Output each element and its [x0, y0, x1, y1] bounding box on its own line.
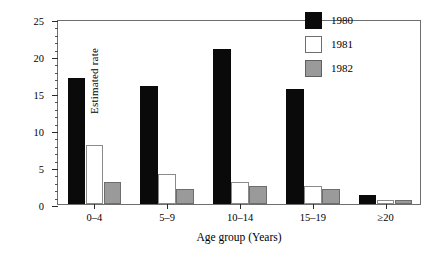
y-tick-minor: [55, 117, 59, 118]
bar-1980-≥20: [359, 195, 377, 204]
y-tick-label: 10: [34, 128, 45, 139]
y-tick-minor: [55, 80, 59, 81]
bar-1981-15–19: [304, 186, 322, 205]
y-tick-major: 25: [52, 21, 58, 22]
bar-1980-15–19: [286, 89, 304, 204]
bar-1982-≥20: [395, 200, 413, 204]
bar-1981-5–9: [158, 174, 176, 204]
legend-label: 1982: [331, 63, 353, 74]
legend: 198019811982: [305, 12, 353, 77]
y-tick-minor: [55, 73, 59, 74]
x-tick: [240, 204, 241, 209]
y-tick-minor: [55, 28, 59, 29]
bar-1981-10–14: [231, 182, 249, 204]
y-tick-minor: [55, 36, 59, 37]
y-tick-minor: [55, 102, 59, 103]
y-axis-title: Estimated rate: [88, 1, 100, 161]
bar-1982-10–14: [249, 186, 267, 205]
y-tick-major: 10: [52, 132, 58, 133]
x-tick: [386, 204, 387, 209]
legend-item-1981: 1981: [305, 36, 353, 53]
bar-1980-5–9: [140, 86, 158, 204]
legend-label: 1981: [331, 39, 353, 50]
x-tick-label: 15–19: [300, 213, 326, 224]
y-tick-major: 5: [52, 169, 58, 170]
y-tick-minor: [55, 184, 59, 185]
y-tick-major: 0: [52, 206, 58, 207]
x-tick: [94, 204, 95, 209]
y-tick-label: 25: [34, 17, 45, 28]
y-tick-minor: [55, 51, 59, 52]
y-tick-minor: [55, 139, 59, 140]
y-tick-major: 20: [52, 58, 58, 59]
y-tick-major: 15: [52, 95, 58, 96]
x-tick: [167, 204, 168, 209]
legend-swatch-1980: [305, 12, 322, 29]
y-tick-label: 5: [39, 165, 44, 176]
y-tick-minor: [55, 191, 59, 192]
x-tick-label: 10–14: [227, 213, 253, 224]
y-tick-minor: [55, 110, 59, 111]
legend-item-1980: 1980: [305, 12, 353, 29]
y-tick-minor: [55, 154, 59, 155]
bar-1982-5–9: [176, 189, 194, 204]
bar-1982-15–19: [322, 189, 340, 204]
legend-swatch-1982: [305, 60, 322, 77]
y-tick-label: 0: [39, 202, 44, 213]
bar-1981-≥20: [377, 200, 395, 204]
bar-chart: Estimated rate 0510152025 0–45–910–1415–…: [0, 0, 430, 266]
bar-1982-0–4: [104, 182, 122, 204]
y-tick-minor: [55, 162, 59, 163]
x-tick-label: 0–4: [87, 213, 103, 224]
y-tick-minor: [55, 88, 59, 89]
x-axis-title: Age group (Years): [58, 231, 420, 243]
y-tick-minor: [55, 199, 59, 200]
x-tick-label: ≥20: [377, 213, 393, 224]
bar-1980-10–14: [213, 49, 231, 204]
bar-1980-0–4: [68, 78, 86, 204]
y-tick-minor: [55, 43, 59, 44]
bar-1981-0–4: [86, 145, 104, 204]
legend-label: 1980: [331, 15, 353, 26]
x-tick: [313, 204, 314, 209]
y-tick-minor: [55, 65, 59, 66]
plot-area: Estimated rate 0510152025 0–45–910–1415–…: [57, 20, 421, 205]
x-tick-label: 5–9: [159, 213, 175, 224]
y-tick-label: 15: [34, 91, 45, 102]
y-tick-label: 20: [34, 54, 45, 65]
legend-swatch-1981: [305, 36, 322, 53]
y-tick-minor: [55, 147, 59, 148]
y-tick-minor: [55, 176, 59, 177]
y-tick-minor: [55, 125, 59, 126]
legend-item-1982: 1982: [305, 60, 353, 77]
